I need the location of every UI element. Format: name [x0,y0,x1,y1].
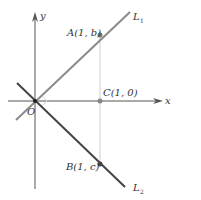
x-axis [8,98,163,104]
point-C [98,99,103,104]
svg-text:1: 1 [140,17,144,24]
origin-point [33,99,37,103]
line-L1-label: L 1 [132,11,144,24]
point-B-label: B(1, c) [65,161,100,172]
perpendicular-lines-diagram: y x O A(1, b) C(1, 0) B(1, c) L 1 L 2 [0,0,201,200]
svg-text:L: L [132,11,140,22]
svg-text:2: 2 [140,188,144,195]
y-axis-label: y [39,10,46,21]
svg-text:L: L [132,182,140,193]
x-axis-label: x [165,95,171,106]
point-A-label: A(1, b) [66,27,101,38]
origin-label: O [27,106,35,117]
line-L2-label: L 2 [132,182,144,195]
point-C-label: C(1, 0) [103,87,138,98]
